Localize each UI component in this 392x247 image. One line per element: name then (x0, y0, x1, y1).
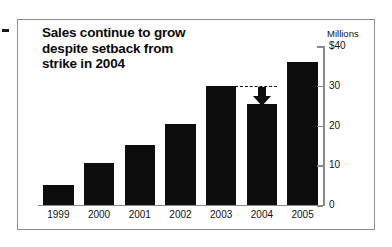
bar-2003 (206, 86, 236, 205)
plot-area (38, 46, 323, 205)
x-tick-label-1999: 1999 (38, 209, 79, 220)
y-tick-30 (317, 86, 323, 88)
x-tick-label-2003: 2003 (201, 209, 242, 220)
bar-2004 (247, 104, 277, 205)
y-tick-label-0: 0 (329, 200, 335, 210)
bar-2005 (287, 62, 317, 205)
y-tick-0 (317, 205, 323, 207)
x-tick-label-2000: 2000 (79, 209, 120, 220)
x-axis-line (38, 205, 324, 207)
bar-2001 (125, 145, 155, 205)
y-axis-title: Millions (327, 28, 359, 39)
y-tick-20 (317, 126, 323, 128)
y-tick-40 (317, 46, 323, 48)
arrow-head (253, 96, 271, 106)
x-tick-label-2005: 2005 (282, 209, 323, 220)
left-edge-tick-mark (2, 29, 9, 32)
y-tick-label-40: $40 (329, 41, 346, 51)
y-tick-label-10: 10 (329, 160, 340, 170)
reference-line-30m (206, 86, 277, 87)
y-tick-label-20: 20 (329, 121, 340, 131)
x-tick-label-2001: 2001 (119, 209, 160, 220)
bar-1999 (43, 185, 73, 205)
y-tick-label-30: 30 (329, 81, 340, 91)
bar-2000 (84, 163, 114, 205)
x-tick-label-2004: 2004 (242, 209, 283, 220)
y-tick-10 (317, 165, 323, 167)
x-tick-label-2002: 2002 (160, 209, 201, 220)
y-axis-line (323, 46, 325, 206)
bar-2002 (165, 124, 195, 205)
